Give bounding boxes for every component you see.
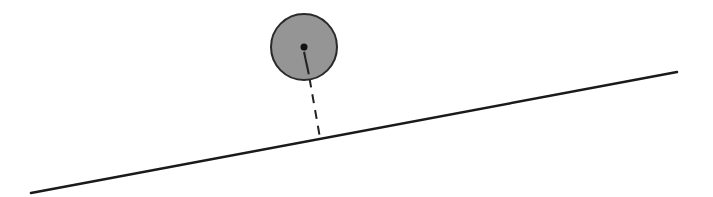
incline-line <box>31 72 677 193</box>
incline-ball-diagram <box>0 0 713 197</box>
ball-center-dot <box>301 44 308 51</box>
diagram-canvas <box>0 0 713 197</box>
